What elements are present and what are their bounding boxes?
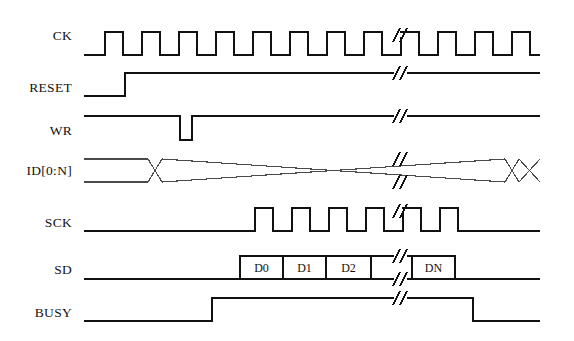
wave-SCK <box>84 208 540 231</box>
bus-top-ID[0:N] <box>84 159 540 182</box>
data-box-label-d1: D1 <box>283 262 326 274</box>
waveform-traces <box>84 28 540 321</box>
data-box-label-d2: D2 <box>326 262 371 274</box>
wave-WR <box>84 116 540 140</box>
break-marker-ID[0:N]-bottom <box>393 175 407 189</box>
break-marker-ID[0:N]-top <box>393 152 407 166</box>
data-box-label-d0: D0 <box>240 262 283 274</box>
signal-label-sck: SCK <box>45 216 72 230</box>
break-marker-BUSY <box>393 291 407 305</box>
signal-label-id-0-n: ID[0:N] <box>26 164 72 178</box>
wave-RESET <box>84 73 540 96</box>
timing-diagram: CKRESETWRID[0:N]SCKSDBUSY D0D1D2DN <box>0 0 574 341</box>
signal-label-wr: WR <box>50 124 72 138</box>
break-marker-SCK <box>393 204 407 218</box>
wave-CK <box>84 32 540 55</box>
signal-label-reset: RESET <box>29 81 72 95</box>
wave-BUSY <box>84 298 540 321</box>
bus-bottom-ID[0:N] <box>84 159 540 182</box>
break-marker-WR <box>393 109 407 123</box>
signal-label-ck: CK <box>53 29 72 43</box>
signal-label-sd: SD <box>54 263 72 277</box>
data-box-label-dn: DN <box>412 262 455 274</box>
waveform-canvas <box>0 0 574 341</box>
break-marker-RESET <box>393 66 407 80</box>
signal-label-busy: BUSY <box>35 306 72 320</box>
